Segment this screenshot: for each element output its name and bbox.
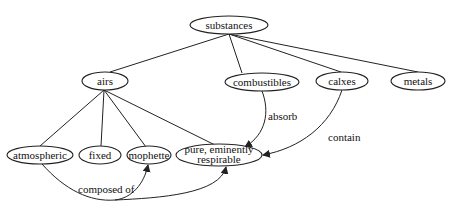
edge-airs-atmospheric bbox=[40, 90, 104, 146]
edge-calxes-pure-contain bbox=[263, 90, 342, 155]
node-label: mophette bbox=[129, 149, 170, 161]
node-label: fixed bbox=[89, 149, 112, 161]
node-airs: airs bbox=[82, 72, 128, 90]
edge-label-absorb: absorb bbox=[268, 110, 298, 122]
concept-diagram: substances airs combustibles calxes meta… bbox=[0, 0, 454, 211]
node-metals: metals bbox=[391, 72, 445, 90]
node-label: calxes bbox=[328, 75, 355, 87]
node-label: atmospheric bbox=[13, 149, 67, 161]
edge-airs-mophette bbox=[104, 90, 146, 147]
node-mophette: mophette bbox=[127, 146, 171, 164]
edge-substances-airs bbox=[110, 34, 229, 72]
node-label: substances bbox=[205, 19, 252, 31]
node-combustibles: combustibles bbox=[225, 73, 299, 91]
edge-airs-fixed bbox=[101, 90, 104, 146]
node-label: combustibles bbox=[233, 76, 291, 88]
edge-label-contain: contain bbox=[328, 131, 361, 143]
node-substances: substances bbox=[190, 16, 268, 34]
edge-combustibles-pure-absorb bbox=[245, 91, 266, 147]
node-pure-eminently-respirable: pure, eminently respirable bbox=[176, 143, 262, 166]
node-calxes: calxes bbox=[316, 72, 368, 90]
node-atmospheric: atmospheric bbox=[7, 146, 73, 164]
node-fixed: fixed bbox=[79, 146, 121, 164]
node-label: metals bbox=[404, 75, 433, 87]
edge-label-composed-of: composed of bbox=[78, 183, 135, 195]
node-label: airs bbox=[97, 75, 113, 87]
edge-substances-combustibles bbox=[229, 34, 242, 73]
node-label-line2: respirable bbox=[197, 153, 240, 165]
edge-airs-pure bbox=[104, 90, 215, 145]
